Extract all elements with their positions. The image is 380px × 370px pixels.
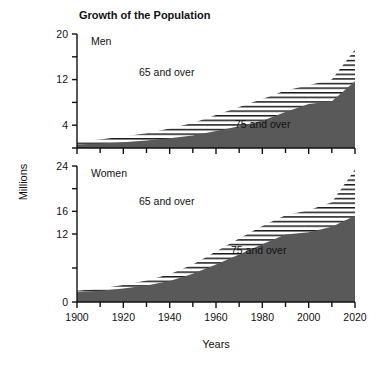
- x-tick-label: 2020: [343, 311, 367, 323]
- population-growth-chart: Growth of the Population Millions Years …: [0, 0, 380, 370]
- chart-canvas: Growth of the Population Millions Years …: [0, 0, 380, 370]
- panel-label-men: Men: [91, 35, 112, 47]
- x-tick-label: 1920: [112, 311, 136, 323]
- x-tick-label: 1900: [65, 311, 89, 323]
- x-tick-label: 1960: [204, 311, 228, 323]
- x-tick-label: 1980: [251, 311, 275, 323]
- y-tick-label: 12: [56, 228, 68, 240]
- y-tick-label: 0: [62, 296, 68, 308]
- y-tick-label: 4: [62, 119, 68, 131]
- y-tick-label: 20: [56, 28, 68, 40]
- y-axis-title: Millions: [17, 163, 29, 200]
- y-tick-label: 24: [56, 160, 68, 172]
- annotation-65-and-over: 65 and over: [139, 195, 195, 207]
- panel-label-women: Women: [91, 167, 127, 179]
- y-tick-label: 16: [56, 205, 68, 217]
- annotation-75-and-over: 75 and over: [231, 244, 287, 256]
- annotation-65-and-over: 65 and over: [139, 66, 195, 78]
- x-tick-label: 2000: [297, 311, 321, 323]
- annotation-75-and-over: 75 and over: [235, 118, 291, 130]
- chart-background: [0, 0, 380, 370]
- x-axis-title: Years: [202, 338, 230, 350]
- y-tick-label: 12: [56, 73, 68, 85]
- x-tick-label: 1940: [158, 311, 182, 323]
- chart-title: Growth of the Population: [79, 9, 211, 21]
